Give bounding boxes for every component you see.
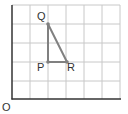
label-q: Q: [37, 10, 46, 22]
point-q: [46, 22, 50, 26]
point-p: [46, 60, 50, 64]
label-r: R: [67, 61, 75, 73]
label-p: P: [37, 61, 44, 73]
grid-lines: [12, 5, 120, 99]
origin-label: O: [2, 101, 11, 113]
coordinate-grid-diagram: Q P R O: [0, 0, 128, 114]
